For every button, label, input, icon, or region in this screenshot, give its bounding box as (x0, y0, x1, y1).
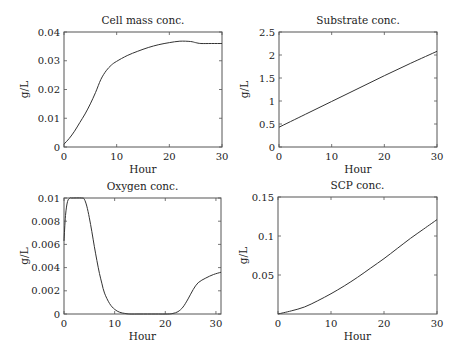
oxygen-title: Oxygen conc. (107, 180, 179, 192)
oxygen-ytick-label: 0.006 (31, 239, 60, 250)
cell-mass-ytick-label: 0.03 (38, 55, 60, 66)
cell-mass-title: Cell mass conc. (102, 14, 185, 26)
substrate-xtick-label: 20 (378, 151, 391, 162)
scp-title: SCP conc. (331, 179, 385, 191)
cell-mass-ytick-label: 0.04 (38, 27, 60, 38)
cell-mass-xtick-label: 30 (216, 151, 229, 162)
cell-mass-curve (64, 41, 222, 144)
substrate-xlabel: Hour (344, 163, 372, 175)
oxygen-ytick-label: 0 (54, 309, 60, 320)
substrate-xtick-label: 30 (431, 151, 444, 162)
scp-axes-frame (278, 197, 437, 314)
oxygen-xtick-label: 0 (61, 318, 67, 329)
scp-xtick-label: 20 (378, 318, 391, 329)
oxygen-xtick-label: 10 (108, 318, 121, 329)
cell-mass-ytick-label: 0.02 (38, 84, 60, 95)
cell-mass-xtick-label: 10 (110, 151, 123, 162)
substrate-ytick-label: 1.5 (259, 73, 275, 84)
substrate-ytick-label: 1 (269, 96, 275, 107)
scp-subplot: SCP conc.01020300.050.10.15Hourg/L (237, 179, 443, 342)
cell-mass-subplot: Cell mass conc.010203000.010.020.030.04H… (18, 14, 228, 175)
oxygen-xlabel: Hour (129, 330, 157, 342)
substrate-ytick-label: 2.5 (259, 27, 275, 38)
substrate-subplot: Substrate conc.010203000.511.522.5Hourg/… (238, 14, 443, 175)
substrate-title: Substrate conc. (316, 14, 400, 26)
cell-mass-ytick-label: 0 (54, 142, 60, 153)
oxygen-xtick-label: 30 (210, 318, 223, 329)
scp-xtick-label: 0 (275, 318, 281, 329)
oxygen-curve (64, 198, 221, 314)
scp-ylabel: g/L (237, 247, 249, 264)
cell-mass-ytick-label: 0.01 (38, 113, 60, 124)
scp-xlabel: Hour (344, 330, 372, 342)
oxygen-ytick-label: 0.002 (31, 285, 60, 296)
oxygen-ytick-label: 0.01 (38, 193, 60, 204)
scp-ytick-label: 0.05 (252, 270, 274, 281)
cell-mass-xlabel: Hour (129, 163, 157, 175)
scp-curve (278, 220, 437, 314)
oxygen-ylabel: g/L (18, 247, 30, 264)
substrate-axes-frame (279, 32, 437, 147)
scp-xtick-label: 10 (325, 318, 338, 329)
substrate-ytick-label: 0 (269, 142, 275, 153)
substrate-xtick-label: 0 (276, 151, 282, 162)
cell-mass-xtick-label: 0 (61, 151, 67, 162)
substrate-ylabel: g/L (238, 81, 250, 98)
cell-mass-xtick-label: 20 (163, 151, 176, 162)
scp-ytick-label: 0.1 (258, 231, 274, 242)
substrate-ytick-label: 2 (269, 50, 275, 61)
oxygen-xtick-label: 20 (159, 318, 172, 329)
substrate-curve (279, 51, 437, 127)
figure: Cell mass conc.010203000.010.020.030.04H… (0, 0, 461, 357)
oxygen-ytick-label: 0.004 (31, 262, 60, 273)
oxygen-subplot: Oxygen conc.010203000.0020.0040.0060.008… (18, 180, 222, 342)
oxygen-axes-frame (64, 198, 221, 314)
substrate-xtick-label: 10 (325, 151, 338, 162)
substrate-ytick-label: 0.5 (259, 119, 275, 130)
scp-ytick-label: 0.15 (252, 192, 274, 203)
scp-xtick-label: 30 (431, 318, 444, 329)
cell-mass-ylabel: g/L (18, 81, 30, 98)
oxygen-ytick-label: 0.008 (31, 216, 60, 227)
